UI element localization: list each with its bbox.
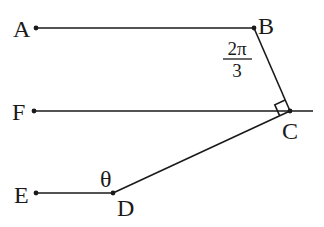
label-c: C bbox=[282, 118, 298, 144]
label-f: F bbox=[12, 99, 25, 125]
label-e: E bbox=[14, 182, 29, 208]
angle-b-denominator: 3 bbox=[232, 60, 242, 81]
point-f bbox=[32, 109, 37, 114]
point-b bbox=[252, 26, 257, 31]
label-b: B bbox=[258, 13, 274, 39]
label-a: A bbox=[13, 16, 31, 42]
geometry-diagram: A B F C E D 2π 3 θ bbox=[0, 0, 324, 227]
angle-b-numerator: 2π bbox=[227, 38, 247, 59]
angle-theta-label: θ bbox=[100, 166, 112, 192]
point-a bbox=[34, 26, 39, 31]
segment-cd bbox=[113, 111, 290, 193]
label-d: D bbox=[117, 195, 134, 221]
point-c bbox=[288, 109, 293, 114]
point-e bbox=[34, 191, 39, 196]
segment-bc bbox=[254, 28, 290, 111]
